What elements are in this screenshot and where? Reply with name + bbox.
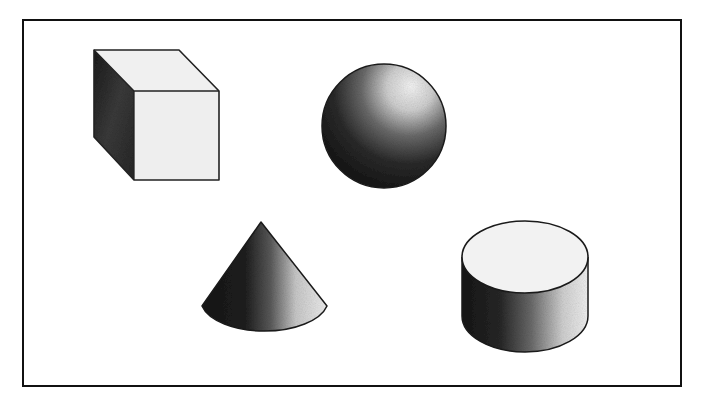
shapes-layer <box>0 0 702 408</box>
cube-front-face <box>134 91 219 180</box>
cylinder-top-face <box>462 221 588 293</box>
cylinder-shape <box>462 221 588 352</box>
cone-shape <box>202 222 327 331</box>
figure-canvas: Basic 3D shapes with shading <box>0 0 702 408</box>
sphere-shape <box>322 64 446 188</box>
cube-shape <box>94 50 219 180</box>
